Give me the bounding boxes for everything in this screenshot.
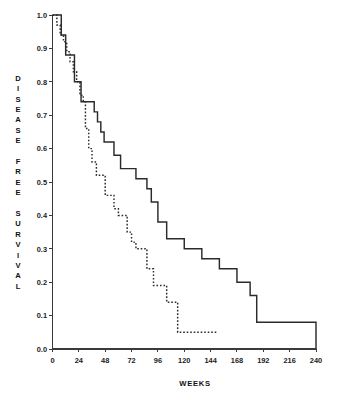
y-tick-label: 0.4 — [37, 211, 48, 220]
axis-lines — [53, 15, 317, 349]
plot-series — [53, 15, 317, 349]
x-tick-label: 144 — [204, 356, 217, 365]
y-axis-title-letter: S — [15, 126, 20, 135]
y-axis-title-letter: S — [15, 95, 20, 104]
y-axis-title-letter: V — [15, 261, 21, 270]
y-axis-title: DISEASEFREESURVIVAL — [15, 74, 21, 291]
y-tick-label: 0.8 — [37, 78, 47, 87]
y-axis-title-letter: V — [15, 240, 21, 249]
y-tick-label: 0.2 — [37, 278, 47, 287]
x-axis-ticks: 024487296120144168192216240 — [50, 349, 322, 365]
y-tick-label: 0.0 — [37, 345, 47, 354]
plot-axes: 0.00.10.20.30.40.50.60.70.80.91.0 024487… — [37, 11, 322, 365]
y-axis-title-letter: A — [15, 115, 21, 124]
y-axis-title-letter: E — [15, 136, 20, 145]
x-tick-label: 216 — [283, 356, 295, 365]
x-tick-label: 192 — [257, 356, 269, 365]
survival-curve-solid — [53, 15, 317, 349]
y-axis-title-letter: E — [15, 178, 20, 187]
x-tick-label: 72 — [127, 356, 135, 365]
km-plot-svg: 0.00.10.20.30.40.50.60.70.80.91.0 024487… — [0, 0, 338, 400]
y-axis-title-letter: D — [15, 74, 21, 83]
x-tick-label: 48 — [101, 356, 109, 365]
y-tick-label: 0.7 — [37, 111, 47, 120]
y-axis-title-letter: S — [15, 209, 20, 218]
x-tick-label: 240 — [310, 356, 322, 365]
x-tick-label: 120 — [178, 356, 190, 365]
y-axis-title-letter: R — [15, 167, 21, 176]
survival-curve-dotted — [53, 15, 218, 332]
y-axis-title-letter: E — [15, 188, 20, 197]
y-axis-title-letter: A — [15, 271, 21, 280]
y-axis-title-letter: F — [16, 157, 21, 166]
km-survival-figure: 0.00.10.20.30.40.50.60.70.80.91.0 024487… — [0, 0, 338, 400]
y-axis-title-letter: U — [15, 219, 21, 228]
y-tick-label: 0.6 — [37, 144, 47, 153]
y-tick-label: 0.5 — [37, 178, 47, 187]
x-tick-label: 24 — [75, 356, 84, 365]
x-axis-title-label: WEEKS — [179, 379, 210, 388]
x-tick-label: 96 — [154, 356, 162, 365]
x-tick-label: 0 — [50, 356, 54, 365]
y-axis-title-letter: E — [15, 105, 20, 114]
y-axis-title-letter: I — [17, 251, 19, 260]
y-tick-label: 0.1 — [37, 311, 47, 320]
y-axis-title-letter: R — [15, 230, 21, 239]
y-axis-title-letter: L — [16, 282, 21, 291]
y-tick-label: 0.9 — [37, 44, 47, 53]
y-tick-label: 0.3 — [37, 245, 47, 254]
y-axis-ticks: 0.00.10.20.30.40.50.60.70.80.91.0 — [37, 11, 53, 354]
y-axis-title-letter: I — [17, 84, 19, 93]
x-tick-label: 168 — [231, 356, 243, 365]
y-tick-label: 1.0 — [37, 11, 47, 20]
